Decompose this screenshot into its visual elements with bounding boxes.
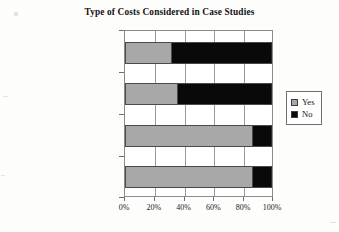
scan-speckle	[1, 175, 5, 176]
bar-segment-no	[253, 125, 272, 147]
x-axis-tick	[272, 197, 273, 201]
legend-entry-yes: Yes	[291, 96, 315, 108]
x-axis-tick	[154, 197, 155, 201]
bar-segment-no	[172, 42, 272, 64]
bar-segment-yes	[125, 125, 253, 147]
bar-row	[125, 42, 272, 64]
x-axis-tick-label: 80%	[236, 203, 251, 212]
chart-title: Type of Costs Considered in Case Studies	[0, 7, 339, 17]
bar-row	[125, 166, 272, 188]
bar-row	[125, 83, 272, 105]
bar-row	[125, 125, 272, 147]
bar-segment-no	[178, 83, 272, 105]
x-axis-tick	[243, 197, 244, 201]
bar-segment-yes	[125, 166, 253, 188]
x-axis: 0% 20% 40% 60% 80% 100%	[124, 197, 273, 219]
x-axis-tick-label: 100%	[263, 203, 282, 212]
black-square-swatch-icon	[291, 111, 298, 118]
chart-legend: Yes No	[286, 91, 322, 125]
x-axis-tick-label: 0%	[119, 203, 130, 212]
x-axis-tick-label: 40%	[176, 203, 191, 212]
x-axis-tick	[184, 197, 185, 201]
legend-entry-no: No	[291, 108, 315, 120]
scan-speckle	[3, 96, 8, 97]
plot-area	[124, 30, 273, 197]
x-axis-tick-label: 60%	[206, 203, 221, 212]
legend-label: No	[302, 109, 313, 119]
legend-label: Yes	[302, 97, 315, 107]
bar-chart: Type of Costs Considered in Case Studies…	[0, 0, 339, 232]
x-axis-tick-label: 20%	[146, 203, 161, 212]
scan-speckle	[14, 12, 18, 16]
gray-square-swatch-icon	[291, 99, 298, 106]
x-axis-tick	[124, 197, 125, 201]
bar-segment-yes	[125, 83, 178, 105]
bar-segment-yes	[125, 42, 172, 64]
scan-speckle	[330, 222, 336, 223]
bar-segment-no	[253, 166, 272, 188]
x-axis-tick	[213, 197, 214, 201]
